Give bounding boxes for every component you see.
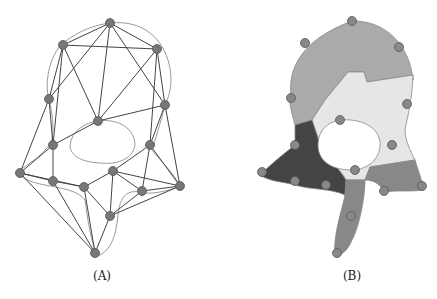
panel-b-regions bbox=[260, 21, 424, 255]
panel-a-nodes bbox=[16, 19, 185, 258]
figure bbox=[0, 0, 437, 299]
panel-b-label: (B) bbox=[343, 269, 361, 283]
hole bbox=[318, 120, 380, 170]
panel-a-label: (A) bbox=[93, 269, 111, 283]
